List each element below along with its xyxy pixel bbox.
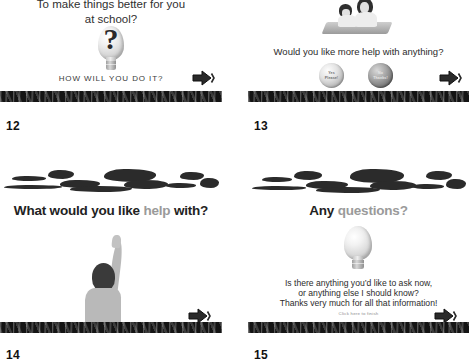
child-raising-hand-icon <box>76 233 134 331</box>
slide-15[interactable]: Any questions? Is there anything you’d l… <box>248 160 469 345</box>
person-right-body <box>355 12 377 27</box>
slide-13-content: Would you like more help with anything? … <box>248 0 469 114</box>
slide-13-prompt: Would you like more help with anything? <box>248 46 469 58</box>
slide-12-number: 12 <box>6 119 20 133</box>
child-hand <box>111 235 121 249</box>
lightbulb-question-icon: ? <box>98 26 124 70</box>
slide-14[interactable]: What would you like help with? <box>0 160 222 345</box>
slide-15-body-line2: or anything else I should know? <box>248 288 469 298</box>
slide-15-body-line3: Thanks very much for all that informatio… <box>248 298 469 308</box>
bulb-glass <box>344 226 372 260</box>
slide-12[interactable]: To make things better for you at school?… <box>0 0 222 114</box>
next-arrow-button-12[interactable] <box>192 70 215 86</box>
yes-please-label: Yes Please! <box>325 71 338 80</box>
slide-15-content: Any questions? Is there anything you’d l… <box>248 160 469 345</box>
slide-13-toner-band <box>248 91 469 102</box>
slide-14-title-part1: What would you like <box>14 203 144 218</box>
slide-15-title: Any questions? <box>248 203 469 218</box>
slide-14-content: What would you like help with? <box>0 160 222 345</box>
slide-14-number: 14 <box>6 348 20 362</box>
slide-15-body-line1: Is there anything you’d like to ask now, <box>248 278 469 288</box>
question-mark-glyph: ? <box>98 24 124 54</box>
slide-15-toner-band <box>248 322 469 333</box>
slide-13-number: 13 <box>254 119 268 133</box>
slide-14-title: What would you like help with? <box>0 203 222 218</box>
slide-14-title-highlight: help <box>143 203 170 218</box>
no-thanks-label: No Thanks! <box>373 71 387 80</box>
slide-15-title-highlight: questions? <box>338 203 408 218</box>
column-gutter <box>222 0 248 357</box>
bulb-base <box>106 61 117 70</box>
slide-15-title-part1: Any <box>309 203 337 218</box>
slide-13[interactable]: Would you like more help with anything? … <box>248 0 469 114</box>
person-right <box>355 0 379 28</box>
two-people-reading-icon <box>324 0 390 34</box>
child-head <box>92 263 115 290</box>
slide-14-header-smear <box>4 166 219 194</box>
bulb-base <box>352 260 364 269</box>
slide-14-title-part2: with? <box>170 203 208 218</box>
slide-12-heading-line1: To make things better for you <box>0 0 222 10</box>
slide-15-header-smear <box>252 166 466 194</box>
no-thanks-button[interactable]: No Thanks! <box>368 63 393 88</box>
slide-12-caption: HOW WILL YOU DO IT? <box>0 74 222 83</box>
next-arrow-button-13[interactable] <box>439 70 462 86</box>
lightbulb-icon <box>344 226 372 269</box>
slide-14-toner-band <box>0 322 222 333</box>
slide-12-content: To make things better for you at school?… <box>0 0 222 114</box>
slide-15-number: 15 <box>254 348 268 362</box>
yes-please-button[interactable]: Yes Please! <box>319 63 344 88</box>
slide-12-toner-band <box>0 91 222 102</box>
